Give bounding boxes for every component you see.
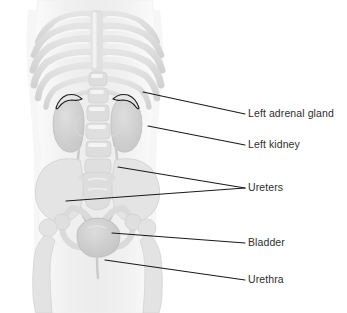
label-left-adrenal-gland: Left adrenal gland bbox=[248, 108, 334, 119]
label-left-kidney: Left kidney bbox=[248, 139, 300, 150]
anatomy-figure: Left adrenal gland Left kidney Ureters B… bbox=[0, 0, 347, 313]
sacrum bbox=[83, 172, 113, 210]
bladder bbox=[77, 218, 120, 257]
urethra bbox=[97, 257, 98, 278]
label-urethra: Urethra bbox=[248, 274, 284, 285]
anatomy-illustration bbox=[0, 0, 347, 313]
sternum bbox=[91, 10, 103, 72]
label-ureters: Ureters bbox=[248, 182, 283, 193]
leader-left-kidney bbox=[148, 126, 245, 145]
label-bladder: Bladder bbox=[248, 237, 285, 248]
